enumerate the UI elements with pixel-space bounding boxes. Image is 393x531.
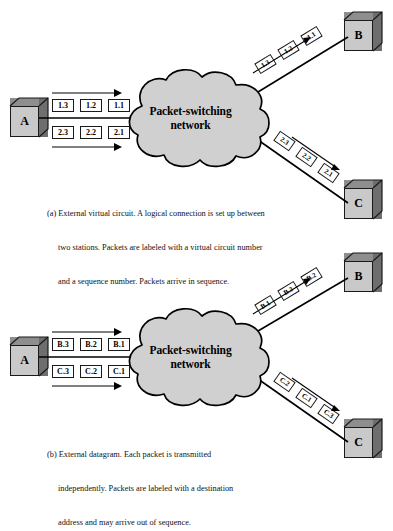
caption-a-line1: (a) External virtual circuit. A logical …	[47, 208, 265, 219]
caption-panel-b: (b) External datagram. Each packet is tr…	[47, 426, 233, 531]
panel-virtual-circuit: A B C Packet-swit	[0, 0, 393, 238]
caption-b-line1: (b) External datagram. Each packet is tr…	[47, 449, 233, 460]
caption-b-line3: address and may arrive out of sequence.	[47, 517, 233, 528]
panel-datagram: A B C Packet-swit	[0, 239, 393, 477]
caption-b-line2: independently. Packets are labeled with …	[47, 483, 233, 494]
